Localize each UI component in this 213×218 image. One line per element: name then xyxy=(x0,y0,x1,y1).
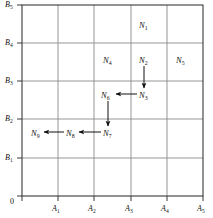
origin-label: 0 xyxy=(10,198,14,206)
x-tick-a2-sub: 2 xyxy=(93,208,96,214)
node-label-n9: N9 xyxy=(31,129,40,138)
node-n6-base: N xyxy=(101,90,107,100)
node-n9-sub: 9 xyxy=(37,133,40,139)
plot-frame xyxy=(22,5,203,196)
node-n3-base: N xyxy=(139,90,145,100)
node-n2-sub: 2 xyxy=(145,60,148,66)
y-tick-label-b3: B3 xyxy=(5,77,13,85)
x-tick-label-a1: A1 xyxy=(52,205,60,213)
node-n7-base: N xyxy=(103,128,109,138)
node-label-n4: N4 xyxy=(103,56,112,65)
node-n1-base: N xyxy=(139,20,145,30)
x-tick-a1-sub: 1 xyxy=(57,208,60,214)
node-n5-base: N xyxy=(176,55,182,65)
y-axis-ticks xyxy=(17,5,22,196)
node-n4-sub: 4 xyxy=(109,60,112,66)
node-n2-base: N xyxy=(139,55,145,65)
node-label-n8: N8 xyxy=(66,129,75,138)
node-n4-base: N xyxy=(103,55,109,65)
diagram-canvas xyxy=(0,0,213,218)
y-tick-b1-sub: 1 xyxy=(10,157,13,163)
node-n7-sub: 7 xyxy=(109,133,112,139)
y-tick-b3-sub: 3 xyxy=(10,80,13,86)
x-tick-label-a2: A2 xyxy=(88,205,96,213)
node-label-n5: N5 xyxy=(176,56,185,65)
x-tick-a3-sub: 3 xyxy=(130,208,133,214)
node-label-n2: N2 xyxy=(139,56,148,65)
x-tick-label-a3: A3 xyxy=(125,205,133,213)
x-tick-a4-sub: 4 xyxy=(166,208,169,214)
node-label-n6: N6 xyxy=(101,91,110,100)
node-n6-sub: 6 xyxy=(107,95,110,101)
node-n9-base: N xyxy=(31,128,37,138)
vertical-gridlines xyxy=(58,5,167,196)
y-tick-b4-sub: 4 xyxy=(10,42,13,48)
y-tick-label-b1: B1 xyxy=(5,154,13,162)
y-tick-label-b5: B5 xyxy=(5,1,13,9)
grid-diagram-figure: 0 B5 B4 B3 B2 B1 A1 A2 A3 A4 A5 N1 N2 N3… xyxy=(0,0,213,218)
node-label-n7: N7 xyxy=(103,129,112,138)
y-tick-label-b4: B4 xyxy=(5,39,13,47)
node-n3-sub: 3 xyxy=(145,95,148,101)
x-tick-label-a5: A5 xyxy=(197,205,205,213)
node-label-n1: N1 xyxy=(139,21,148,30)
node-n8-base: N xyxy=(66,128,72,138)
x-axis-ticks xyxy=(22,196,203,201)
node-n1-sub: 1 xyxy=(145,25,148,31)
node-n5-sub: 5 xyxy=(182,60,185,66)
node-label-n3: N3 xyxy=(139,91,148,100)
y-tick-label-b2: B2 xyxy=(5,115,13,123)
y-tick-b5-sub: 5 xyxy=(10,4,13,10)
y-tick-b2-sub: 2 xyxy=(10,118,13,124)
x-tick-label-a4: A4 xyxy=(161,205,169,213)
node-n8-sub: 8 xyxy=(72,133,75,139)
x-tick-a5-sub: 5 xyxy=(202,208,205,214)
